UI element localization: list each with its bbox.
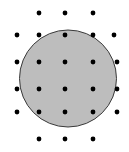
- lattice-dot: [37, 137, 42, 142]
- shaded-circle: [20, 30, 117, 127]
- lattice-dot: [37, 60, 42, 65]
- lattice-dot: [115, 60, 120, 65]
- lattice-dot: [37, 11, 42, 16]
- lattice-dot: [63, 11, 68, 16]
- lattice-dot: [63, 87, 68, 92]
- lattice-dot: [15, 60, 20, 65]
- lattice-dot: [37, 33, 42, 38]
- lattice-dot: [37, 110, 42, 115]
- lattice-dot: [63, 137, 68, 142]
- lattice-dot: [91, 60, 96, 65]
- lattice-dot: [115, 110, 120, 115]
- lattice-dot: [112, 33, 117, 38]
- lattice-dot: [91, 110, 96, 115]
- lattice-dot: [91, 137, 96, 142]
- lattice-dot: [63, 110, 68, 115]
- circle-lattice-diagram: [0, 0, 129, 152]
- lattice-dot: [115, 87, 120, 92]
- lattice-dot: [15, 87, 20, 92]
- lattice-dot: [63, 60, 68, 65]
- lattice-dot: [37, 87, 42, 92]
- lattice-dot: [15, 110, 20, 115]
- lattice-dot: [91, 33, 96, 38]
- lattice-dot: [91, 11, 96, 16]
- lattice-dot: [91, 87, 96, 92]
- lattice-dot: [63, 33, 68, 38]
- lattice-dot: [15, 33, 20, 38]
